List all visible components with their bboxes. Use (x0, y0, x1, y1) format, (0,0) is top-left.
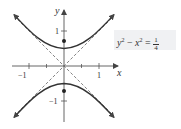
y-tick-label-1: 1 (55, 27, 59, 36)
x-tick-label-1: 1 (97, 71, 101, 80)
equation-label: y2 − x2 = 14 (117, 32, 159, 52)
eq-fraction: 14 (153, 37, 159, 52)
focus-lower (62, 89, 66, 93)
eq-minus: − (124, 37, 135, 48)
focus-upper (62, 39, 66, 43)
eq-denominator: 4 (153, 45, 159, 52)
x-axis-label: x (116, 67, 122, 78)
eq-equals: = (143, 37, 154, 48)
y-axis-label: y (54, 5, 60, 16)
hyperbola-graph: y x −1 1 1 −1 (0, 0, 181, 129)
x-tick-label-neg1: −1 (18, 71, 27, 80)
y-tick-label-neg1: −1 (49, 97, 58, 106)
